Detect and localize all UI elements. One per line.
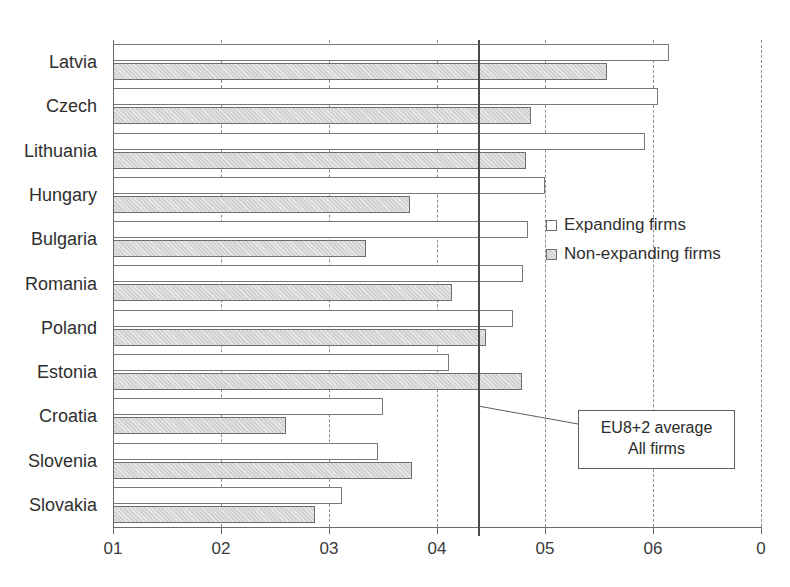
x-axis-tick — [113, 527, 114, 534]
bar-group — [113, 40, 761, 84]
chart-legend: Expanding firms Non-expanding firms — [546, 215, 721, 273]
y-axis-label: Croatia — [39, 406, 97, 427]
bar — [113, 373, 522, 390]
x-axis-tick — [329, 527, 330, 534]
bar — [113, 443, 378, 460]
x-axis-tick-label: 06 — [644, 539, 663, 559]
bar — [113, 152, 526, 169]
bar — [113, 133, 645, 150]
y-axis-label: Romania — [25, 273, 97, 294]
bar — [113, 487, 342, 504]
bar — [113, 177, 545, 194]
bar — [113, 240, 366, 257]
bar — [113, 310, 513, 327]
y-axis-label: Slovenia — [28, 450, 97, 471]
annotation-leader-line — [478, 404, 578, 426]
bar — [113, 398, 383, 415]
bar — [113, 354, 449, 371]
horizontal-bar-chart: LatviaCzechLithuaniaHungaryBulgariaRoman… — [0, 0, 790, 587]
bar-group — [113, 84, 761, 128]
x-axis-tick-label: 02 — [212, 539, 231, 559]
x-axis-tick — [437, 527, 438, 534]
legend-label-non-expanding: Non-expanding firms — [564, 244, 721, 264]
bar — [113, 284, 452, 301]
x-axis-tick-label: 0 — [756, 539, 765, 559]
annotation-line-2: All firms — [585, 439, 728, 460]
y-axis-label: Czech — [46, 96, 97, 117]
x-axis-tick-label: 04 — [428, 539, 447, 559]
bar — [113, 265, 523, 282]
bar — [113, 88, 658, 105]
bar — [113, 196, 410, 213]
legend-swatch-expanding-icon — [546, 220, 557, 231]
y-axis-label: Bulgaria — [31, 229, 97, 250]
y-axis-label: Poland — [41, 317, 97, 338]
bar — [113, 221, 528, 238]
bar — [113, 63, 607, 80]
x-axis-tick-label: 03 — [320, 539, 339, 559]
x-axis-tick — [653, 527, 654, 534]
legend-label-expanding: Expanding firms — [564, 215, 686, 235]
x-axis-tick-label: 01 — [104, 539, 123, 559]
x-axis-tick-label: 05 — [536, 539, 555, 559]
bar — [113, 107, 531, 124]
y-axis-label: Lithuania — [24, 140, 97, 161]
bar-group — [113, 173, 761, 217]
y-axis-label: Estonia — [37, 362, 97, 383]
x-axis-tick — [545, 527, 546, 534]
bar-group — [113, 306, 761, 350]
bar — [113, 506, 315, 523]
legend-item-expanding: Expanding firms — [546, 215, 721, 235]
reference-line-annotation: EU8+2 average All firms — [578, 410, 735, 469]
y-axis-category-labels: LatviaCzechLithuaniaHungaryBulgariaRoman… — [0, 40, 105, 527]
bar — [113, 462, 412, 479]
x-axis-tick — [221, 527, 222, 534]
bar-group — [113, 483, 761, 527]
annotation-line-1: EU8+2 average — [585, 418, 728, 439]
y-axis-label: Latvia — [49, 52, 97, 73]
legend-swatch-non-expanding-icon — [546, 249, 557, 260]
legend-item-non-expanding: Non-expanding firms — [546, 244, 721, 264]
bar — [113, 44, 669, 61]
y-axis-line — [113, 40, 114, 527]
y-axis-label: Slovakia — [29, 494, 97, 515]
bar-group — [113, 350, 761, 394]
bar-group — [113, 129, 761, 173]
bar — [113, 329, 486, 346]
gridline-x-0.7 — [761, 40, 762, 527]
reference-line-eu-average — [478, 40, 480, 527]
bar — [113, 417, 286, 434]
x-axis-tick — [761, 527, 762, 534]
y-axis-label: Hungary — [29, 184, 97, 205]
x-axis-tick-reference — [478, 527, 480, 536]
